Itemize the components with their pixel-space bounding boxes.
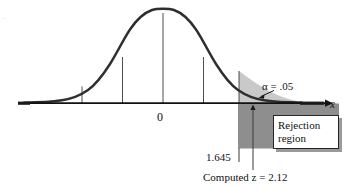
critical-value-label: 1.645 bbox=[206, 152, 231, 163]
distribution-plot bbox=[0, 0, 347, 189]
alpha-level-label: α = .05 bbox=[262, 81, 293, 92]
axis-label-zero: 0 bbox=[157, 111, 163, 123]
x-axis-variable-label: x̄ bbox=[330, 99, 335, 110]
rejection-region-line2: region bbox=[278, 132, 336, 145]
computed-z-label: Computed z = 2.12 bbox=[203, 172, 287, 183]
rejection-region-line1: Rejection bbox=[278, 119, 336, 132]
normal-curve-figure: ···· 0 x̄ α = .05 1.645 Com bbox=[0, 0, 347, 189]
rejection-region-text: Rejection region bbox=[278, 119, 336, 145]
rejection-region-callout: Rejection region bbox=[273, 115, 339, 149]
